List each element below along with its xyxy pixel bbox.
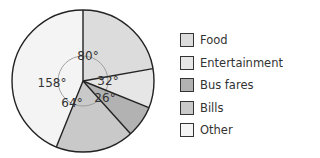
legend-label: Entertainment: [200, 56, 283, 70]
legend-item-bus-fares: Bus fares: [180, 74, 283, 97]
angle-label-entertainment: 32°: [97, 74, 118, 88]
legend-label: Food: [200, 33, 228, 47]
legend-swatch-food: [180, 33, 194, 47]
angle-label-other: 158°: [38, 76, 67, 90]
legend-swatch-entertainment: [180, 56, 194, 70]
legend-swatch-other: [180, 123, 194, 137]
legend-item-bills: Bills: [180, 97, 283, 120]
legend: Food Entertainment Bus fares Bills Other: [180, 29, 283, 142]
legend-item-other: Other: [180, 119, 283, 142]
legend-item-entertainment: Entertainment: [180, 52, 283, 75]
legend-item-food: Food: [180, 29, 283, 52]
angle-label-food: 80°: [77, 49, 98, 63]
angle-label-bus-fares: 26°: [94, 91, 115, 105]
legend-label: Other: [200, 123, 233, 137]
legend-swatch-bills: [180, 101, 194, 115]
legend-swatch-bus-fares: [180, 78, 194, 92]
angle-label-bills: 64°: [61, 96, 82, 110]
legend-label: Bills: [200, 101, 223, 115]
legend-label: Bus fares: [200, 78, 253, 92]
